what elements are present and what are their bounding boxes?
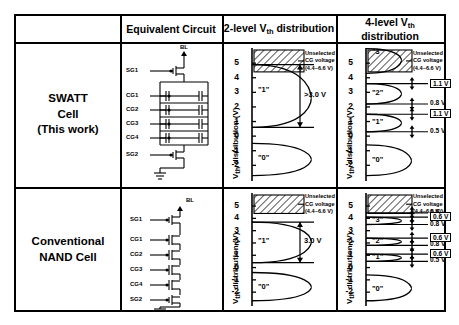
swatt-equivalent-circuit: BL xyxy=(120,42,222,187)
y-tick-label: 0 xyxy=(227,130,239,140)
state-label: "0" xyxy=(258,153,269,162)
interval-label: 0.8 V xyxy=(430,220,445,227)
gate-label-sg1: SG1 xyxy=(126,67,138,73)
gate-label-cg4: CG4 xyxy=(126,134,138,140)
chart-conventional-2level: Vth distribution (V)543210-1-2"1""0"3.0 … xyxy=(222,187,336,312)
y-tick-label: 2 xyxy=(341,237,353,247)
y-tick-label: -2 xyxy=(341,159,353,169)
row-label-line: NAND Cell xyxy=(32,250,105,266)
y-tick-label: -1 xyxy=(227,274,239,284)
header-four-level: 4-level Vth distribution xyxy=(336,16,444,42)
gate-label-cg4: CG4 xyxy=(130,281,142,287)
row-label-line: Cell xyxy=(37,107,98,123)
chart-conventional-4level: Vth distribution (V)543210-1-2"3""2""1""… xyxy=(336,187,444,312)
gate-label-cg2: CG2 xyxy=(130,251,142,257)
y-tick-label: 3 xyxy=(341,225,353,235)
y-tick-label: 0 xyxy=(341,130,353,140)
interval-label: 0.5 V xyxy=(430,256,445,263)
y-tick-label: 1 xyxy=(341,116,353,126)
state-label: "2" xyxy=(372,236,383,245)
state-label: "1" xyxy=(258,236,269,245)
interval-label: 0.5 V xyxy=(430,127,445,134)
y-tick-label: 4 xyxy=(227,72,239,82)
y-tick-label: 0 xyxy=(227,262,239,272)
gate-label-sg2: SG2 xyxy=(126,151,138,157)
state-label: "1" xyxy=(372,117,383,126)
y-tick-label: 3 xyxy=(227,225,239,235)
conventional-equivalent-circuit: BL xyxy=(120,187,222,312)
conventional-circuit-diagram xyxy=(120,187,222,312)
y-tick-label: 0 xyxy=(341,262,353,272)
y-tick-label: 2 xyxy=(227,101,239,111)
swatt-circuit-diagram xyxy=(120,42,222,187)
y-tick-label: -2 xyxy=(227,286,239,296)
y-tick-label: 2 xyxy=(341,101,353,111)
y-tick-label: 4 xyxy=(227,212,239,222)
row-label-conventional: Conventional NAND Cell xyxy=(16,187,120,312)
row-label-line: Conventional xyxy=(32,234,105,250)
y-tick-label: 1 xyxy=(227,249,239,259)
unselected-cg-voltage-note: UnselectedCG voltage(4.4~6.6 V) xyxy=(305,193,335,215)
y-tick-label: 1 xyxy=(341,249,353,259)
unselected-cg-voltage-note: UnselectedCG voltage(4.4~6.6 V) xyxy=(413,50,443,72)
header-label: Equivalent Circuit xyxy=(126,23,215,35)
y-tick-label: -1 xyxy=(341,145,353,155)
bitline-label: BL xyxy=(180,44,188,50)
unselected-cg-voltage-note: UnselectedCG voltage(4.4~6.6 V) xyxy=(413,193,443,215)
bitline-label: BL xyxy=(186,197,194,203)
header-label: 2-level Vth distribution xyxy=(224,22,334,36)
y-tick-label: 5 xyxy=(227,200,239,210)
state-label: "3" xyxy=(372,47,383,56)
comparison-table: Equivalent Circuit 2-level Vth distribut… xyxy=(14,14,446,312)
interval-label-boxed: 1.1 V xyxy=(430,109,451,118)
interval-label-boxed: 1.1 V xyxy=(430,79,451,88)
y-tick-label: 3 xyxy=(227,86,239,96)
interval-label: 0.8 V xyxy=(430,240,445,247)
unselected-cg-voltage-note: UnselectedCG voltage(4.4~6.6 V) xyxy=(305,50,335,72)
margin-label: >3.0 V xyxy=(304,90,326,99)
y-tick-label: 3 xyxy=(341,86,353,96)
state-label: "0" xyxy=(372,284,383,293)
y-tick-label: -1 xyxy=(227,145,239,155)
state-label: "1" xyxy=(258,85,269,94)
y-tick-label: 2 xyxy=(227,237,239,247)
state-label: "0" xyxy=(372,155,383,164)
header-label: 4-level Vth distribution xyxy=(336,16,444,42)
y-tick-label: 5 xyxy=(341,200,353,210)
gate-label-sg1: SG1 xyxy=(130,216,142,222)
header-two-level: 2-level Vth distribution xyxy=(222,16,336,42)
y-tick-label: 5 xyxy=(227,57,239,67)
state-label: "3" xyxy=(372,215,383,224)
y-tick-label: 1 xyxy=(227,116,239,126)
gate-label-cg3: CG3 xyxy=(130,266,142,272)
margin-label: 3.0 V xyxy=(304,236,322,245)
chart-swatt-4level: Vth distribution (V)543210-1-2"3""2""1""… xyxy=(336,42,444,187)
row-label-swatt: SWATT Cell (This work) xyxy=(16,42,120,187)
state-label: "2" xyxy=(372,88,383,97)
y-tick-label: 4 xyxy=(341,212,353,222)
row-label-line: (This work) xyxy=(37,122,98,138)
y-tick-label: -2 xyxy=(341,286,353,296)
y-tick-label: -2 xyxy=(227,159,239,169)
chart-swatt-2level: Vth distribution (V)543210-1-2"1""0">3.0… xyxy=(222,42,336,187)
header-equivalent-circuit: Equivalent Circuit xyxy=(120,16,222,42)
y-tick-label: 5 xyxy=(341,57,353,67)
gate-label-cg1: CG1 xyxy=(130,236,142,242)
gate-label-cg2: CG2 xyxy=(126,106,138,112)
gate-label-cg3: CG3 xyxy=(126,120,138,126)
state-label: "1" xyxy=(372,252,383,261)
state-label: "0" xyxy=(258,282,269,291)
gate-label-cg1: CG1 xyxy=(126,92,138,98)
y-tick-label: 4 xyxy=(341,72,353,82)
row-label-line: SWATT xyxy=(37,91,98,107)
y-tick-label: -1 xyxy=(341,274,353,284)
interval-label: 0.8 V xyxy=(430,99,445,106)
gate-label-sg2: SG2 xyxy=(130,296,142,302)
